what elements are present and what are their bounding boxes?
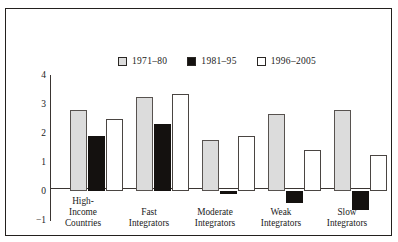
category-line-1: Weak	[248, 207, 314, 218]
y-tick-4: 4	[24, 70, 46, 80]
bar-198195-cat3	[286, 191, 303, 203]
category-line-1: Moderate	[182, 207, 248, 218]
category-label-high-income-countries: High- Income Countries	[50, 196, 116, 229]
bar-197180-cat2	[202, 140, 219, 191]
bar-198195-cat4	[352, 191, 369, 210]
category-line-2: Integrators	[182, 218, 248, 229]
x-axis-category-labels: High- Income Countries Fast Integrators …	[50, 196, 390, 238]
bar-197180-cat0	[70, 110, 87, 191]
category-line-2: Integrators	[314, 218, 380, 229]
legend-entry-1971-80: 1971–80	[118, 56, 167, 66]
chart-legend: 1971–80 1981–95 1996–2005	[118, 53, 348, 69]
bar-19962005-cat3	[304, 150, 321, 191]
category-label-slow-integrators: Slow Integrators	[314, 207, 380, 229]
bar-197180-cat3	[268, 114, 285, 191]
bar-197180-cat1	[136, 97, 153, 191]
bar-198195-cat0	[88, 136, 105, 191]
y-tick-2: 2	[24, 128, 46, 138]
category-line-2: Integrators	[248, 218, 314, 229]
gray-swatch-icon	[118, 57, 127, 66]
y-tick-0: 0	[24, 186, 46, 196]
category-line-1: Fast	[116, 207, 182, 218]
bar-19962005-cat4	[370, 155, 387, 191]
category-line-2: Income	[50, 207, 116, 218]
figure-bar-chart: 1971–80 1981–95 1996–2005 4 3 2 1 0 −1 P…	[0, 0, 398, 242]
legend-label-1971-80: 1971–80	[132, 56, 167, 66]
legend-label-1981-95: 1981–95	[201, 56, 236, 66]
bar-198195-cat2	[220, 191, 237, 194]
y-tick-3: 3	[24, 99, 46, 109]
y-tick-1: 1	[24, 157, 46, 167]
y-axis-tick-labels: 4 3 2 1 0 −1	[20, 72, 46, 222]
legend-label-1996-2005: 1996–2005	[271, 56, 316, 66]
category-line-3: Countries	[50, 218, 116, 229]
white-swatch-icon	[257, 57, 266, 66]
legend-entry-1981-95: 1981–95	[187, 56, 236, 66]
bar-19962005-cat0	[106, 119, 123, 192]
category-label-fast-integrators: Fast Integrators	[116, 207, 182, 229]
bar-197180-cat4	[334, 110, 351, 191]
category-line-1: Slow	[314, 207, 380, 218]
category-label-weak-integrators: Weak Integrators	[248, 207, 314, 229]
bar-198195-cat1	[154, 124, 171, 191]
bar-19962005-cat2	[238, 136, 255, 191]
legend-entry-1996-2005: 1996–2005	[257, 56, 316, 66]
category-label-moderate-integrators: Moderate Integrators	[182, 207, 248, 229]
category-line-1: High-	[50, 196, 116, 207]
y-tick-minus-1: −1	[24, 215, 46, 225]
bar-19962005-cat1	[172, 94, 189, 191]
black-swatch-icon	[187, 57, 196, 66]
category-line-2: Integrators	[116, 218, 182, 229]
